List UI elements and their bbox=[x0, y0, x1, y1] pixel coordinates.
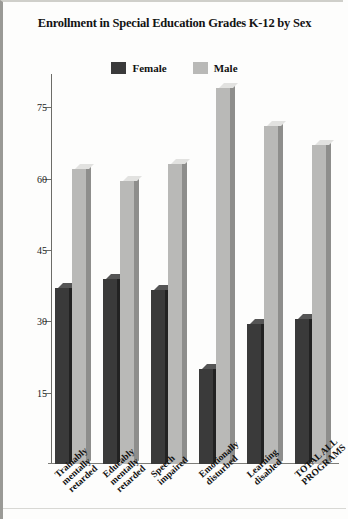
bar-side bbox=[182, 161, 187, 464]
y-tick-label: 75 bbox=[37, 102, 47, 113]
bar-face bbox=[199, 369, 213, 464]
bar-female bbox=[151, 290, 165, 464]
y-tick-label: 15 bbox=[37, 387, 47, 398]
bar-side bbox=[86, 166, 91, 464]
y-axis-line bbox=[51, 74, 52, 464]
bar-side bbox=[230, 85, 235, 464]
bar-male bbox=[168, 164, 182, 464]
bar-face bbox=[168, 164, 182, 464]
legend-label-male: Male bbox=[214, 62, 238, 74]
legend-item-male: Male bbox=[193, 62, 238, 74]
bar-face bbox=[151, 290, 165, 464]
chart-legend: Female Male bbox=[3, 62, 346, 74]
bar-side bbox=[278, 123, 283, 464]
bar-side bbox=[326, 142, 331, 464]
x-axis-labels: TrainablymentallyretardedEducablymentall… bbox=[3, 468, 346, 519]
bar-face bbox=[120, 181, 134, 464]
bar-side bbox=[134, 178, 139, 464]
bar-face bbox=[72, 169, 86, 464]
bar-female bbox=[55, 288, 69, 464]
legend-label-female: Female bbox=[132, 62, 166, 74]
bar-face bbox=[312, 145, 326, 464]
bar-face bbox=[295, 319, 309, 464]
bar-female bbox=[295, 319, 309, 464]
bar-group bbox=[199, 74, 247, 464]
bar-group bbox=[55, 74, 103, 464]
y-tick-label: 45 bbox=[37, 244, 47, 255]
bar-female bbox=[247, 324, 261, 464]
bar-face bbox=[103, 279, 117, 464]
bar-male bbox=[120, 181, 134, 464]
bar-face bbox=[264, 126, 278, 464]
bar-male bbox=[72, 169, 86, 464]
bar-face bbox=[55, 288, 69, 464]
bar-male bbox=[216, 88, 230, 464]
page-title: Enrollment in Special Education Grades K… bbox=[3, 16, 346, 31]
legend-swatch-female bbox=[111, 62, 126, 74]
bar-face bbox=[216, 88, 230, 464]
bar-male bbox=[312, 145, 326, 464]
y-tick-label: 30 bbox=[37, 316, 47, 327]
bar-male bbox=[264, 126, 278, 464]
bar-group bbox=[103, 74, 151, 464]
y-tick-label: 60 bbox=[37, 173, 47, 184]
bar-group bbox=[295, 74, 343, 464]
legend-swatch-male bbox=[193, 62, 208, 74]
plot-area: 1530456075 bbox=[51, 74, 339, 464]
legend-item-female: Female bbox=[111, 62, 166, 74]
bottom-divider bbox=[3, 508, 346, 509]
bar-face bbox=[247, 324, 261, 464]
bar-group bbox=[151, 74, 199, 464]
bar-group bbox=[247, 74, 295, 464]
bar-female bbox=[103, 279, 117, 464]
bar-female bbox=[199, 369, 213, 464]
